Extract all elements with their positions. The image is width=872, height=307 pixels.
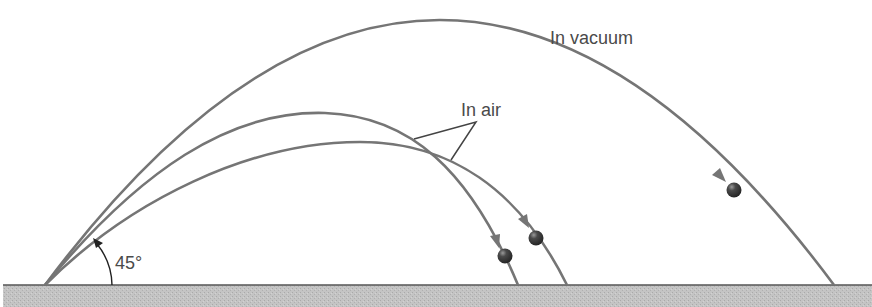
label-air: In air — [461, 100, 501, 120]
trajectory-vacuum — [45, 20, 834, 285]
ball-air-low-icon — [529, 231, 544, 246]
air-leader-line — [414, 122, 476, 160]
projectiles — [498, 183, 742, 264]
arrowhead-air-high-icon — [490, 234, 500, 248]
ground-fill — [3, 285, 872, 307]
ground — [3, 285, 872, 307]
launch-angle-indicator — [93, 238, 112, 285]
diagram-canvas: In vacuum In air 45° — [0, 0, 872, 307]
ball-air-high-icon — [498, 249, 513, 264]
arrowhead-vacuum-icon — [712, 168, 726, 182]
label-vacuum: In vacuum — [550, 28, 633, 48]
direction-arrows — [490, 168, 726, 248]
ball-vacuum-icon — [727, 183, 742, 198]
angle-arc — [97, 244, 112, 285]
arrowhead-air-low-icon — [518, 214, 529, 228]
label-angle: 45° — [115, 253, 142, 273]
air-leader-lines — [414, 122, 476, 160]
projectile-diagram: In vacuum In air 45° — [0, 0, 872, 307]
